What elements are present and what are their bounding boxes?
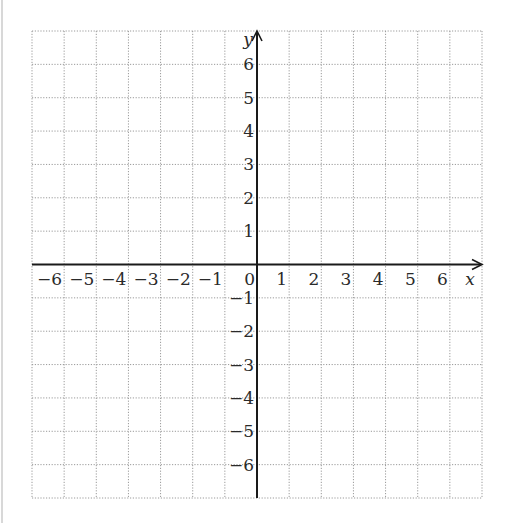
x-tick-label: −6: [37, 269, 62, 289]
origin-label: 0: [244, 269, 255, 289]
x-tick-label: 6: [437, 269, 448, 289]
x-tick-label: −5: [69, 269, 94, 289]
x-axis-label: x: [465, 269, 475, 289]
x-tick-label: −4: [101, 269, 126, 289]
y-tick-label: 6: [243, 54, 254, 74]
x-tick-label: 1: [276, 269, 287, 289]
axes: [32, 31, 482, 498]
x-tick-label: −2: [166, 269, 191, 289]
y-tick-label: 3: [243, 154, 254, 174]
x-tick-label: 5: [405, 269, 416, 289]
x-tick-label: 4: [373, 269, 384, 289]
x-tick-label: 2: [308, 269, 319, 289]
y-tick-label: 4: [243, 121, 254, 141]
x-tick-label: −3: [134, 269, 159, 289]
y-tick-label: −4: [229, 388, 254, 408]
y-tick-label: −2: [229, 321, 254, 341]
y-tick-label: 5: [243, 88, 254, 108]
y-tick-label: 1: [243, 221, 254, 241]
y-tick-label: 2: [243, 188, 254, 208]
y-axis-label: y: [242, 29, 253, 49]
y-tick-label: −6: [229, 455, 254, 475]
y-tick-label: −1: [229, 288, 254, 308]
coordinate-grid: −6−5−4−3−2−10123456x123456−1−2−3−4−5−6y: [0, 0, 516, 523]
x-tick-label: −1: [198, 269, 223, 289]
y-tick-label: −3: [229, 355, 254, 375]
x-tick-label: 3: [341, 269, 352, 289]
y-tick-label: −5: [229, 421, 254, 441]
